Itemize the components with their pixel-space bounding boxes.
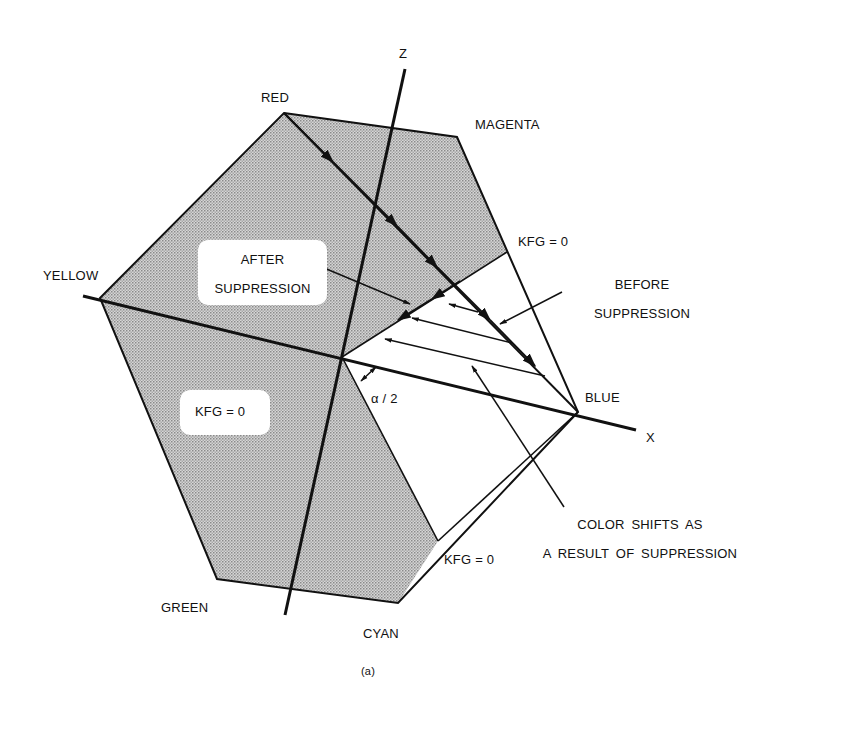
z-axis-label: Z (399, 46, 407, 61)
angle-arrow (361, 367, 376, 381)
vertex-magenta-label: MAGENTA (475, 117, 540, 132)
after-line1: AFTER (198, 245, 327, 274)
kfg-top-label: KFG = 0 (518, 234, 568, 249)
vertex-cyan-label: CYAN (363, 626, 399, 641)
vertex-green-label: GREEN (161, 600, 208, 615)
shift-line1: COLOR SHIFTS AS (540, 510, 740, 539)
before-leader (500, 292, 562, 324)
figure-caption: (a) (361, 665, 375, 677)
shift-arrow-3 (385, 339, 545, 376)
before-line2: SUPPRESSION (577, 299, 707, 328)
color-hexagon-diagram (0, 0, 849, 730)
vertex-blue-label: BLUE (585, 390, 620, 405)
path-arrow-5 (490, 320, 535, 366)
after-suppression-label: AFTER SUPPRESSION (198, 245, 327, 303)
before-suppression-label: BEFORE SUPPRESSION (577, 270, 707, 328)
vertex-yellow-label: YELLOW (43, 268, 98, 283)
angle-label: α / 2 (371, 391, 398, 406)
before-line1: BEFORE (577, 270, 707, 299)
after-line2: SUPPRESSION (198, 274, 327, 303)
shift-leader (472, 366, 564, 507)
shift-line2: A RESULT OF SUPPRESSION (540, 539, 740, 568)
kfg-bottom-label: KFG = 0 (444, 552, 494, 567)
kfg-left-label: KFG = 0 (195, 404, 245, 419)
color-shift-label: COLOR SHIFTS AS A RESULT OF SUPPRESSION (540, 510, 740, 568)
vertex-red-label: RED (261, 90, 289, 105)
x-axis-label: X (646, 430, 655, 445)
